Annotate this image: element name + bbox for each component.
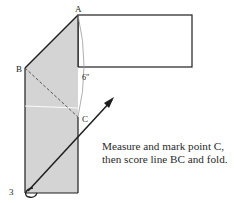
step-number: 3 xyxy=(9,187,14,197)
fold-diagram: A B C 6″ 3 xyxy=(0,0,234,203)
instruction-caption: Measure and mark point C, then score lin… xyxy=(102,140,232,165)
measurement-label: 6″ xyxy=(82,73,89,82)
label-c: C xyxy=(82,114,88,124)
label-b: B xyxy=(16,64,22,74)
label-a: A xyxy=(75,4,82,14)
top-flap-rectangle xyxy=(78,15,192,67)
